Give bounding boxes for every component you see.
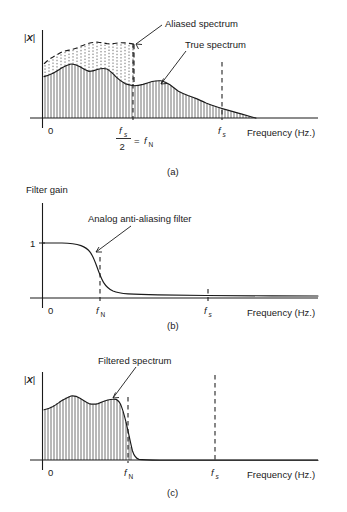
panel-a-annotation-true: True spectrum [185,39,246,50]
panel-a-tick-nyquist: f s 2 = f N [116,125,154,152]
panel-c-annotation-filtered: Filtered spectrum [98,355,171,366]
panel-c-x-axis-label: Frequency (Hz.) [247,469,315,480]
svg-text:f: f [211,467,215,478]
panel-a-true-hatching [45,64,252,118]
svg-text:f: f [144,135,148,146]
svg-text:f: f [218,125,222,136]
panel-b-y-axis-label: Filter gain [26,184,68,195]
svg-text:N: N [149,141,154,148]
svg-text:N: N [129,473,134,480]
panel-b-filter-curve [43,243,319,296]
panel-a-arrowhead-aliased [136,44,142,49]
panel-c-leader-filtered [113,367,136,398]
panel-b-tick-fn: f N [96,305,106,318]
svg-text:2: 2 [120,141,125,152]
panel-c-y-axis-label: |X| [24,374,35,385]
panel-b-tick-fs: f s [204,305,213,318]
panel-c-tick-fn: f N [124,467,134,480]
panel-c-tick-fs: f s [211,467,220,480]
svg-text:s: s [124,131,128,138]
panel-b-annotation-filter: Analog anti-aliasing filter [88,213,192,224]
panel-c-filtered-curve [44,396,318,460]
panel-c-hatching [45,396,131,460]
svg-text:f: f [204,305,208,316]
svg-text:s: s [209,311,213,318]
panel-a: |X| 0 f s 2 = f N f s Frequency (Hz.) Al… [24,18,318,177]
panel-a-tick-fs: f s [218,125,227,138]
panel-c-caption: (c) [167,487,178,498]
svg-text:N: N [101,311,106,318]
panel-a-x-axis-label: Frequency (Hz.) [247,127,315,138]
svg-text:=: = [134,135,140,146]
svg-text:f: f [124,467,128,478]
svg-text:s: s [223,131,227,138]
panel-a-y-axis-label: |X| [24,32,35,43]
panel-a-caption: (a) [167,166,179,177]
svg-text:f: f [119,125,123,136]
panel-b-tick-origin: 0 [48,305,53,316]
panel-a-leader-aliased [136,25,162,44]
panel-a-leader-true [161,51,186,84]
panel-c-tick-origin: 0 [48,467,53,478]
figure-container: |X| 0 f s 2 = f N f s Frequency (Hz.) Al… [0,0,347,512]
panel-b: Filter gain 1 0 f N f s Frequency (Hz.) … [26,184,318,331]
panel-a-tick-origin: 0 [48,125,53,136]
panel-b-x-axis-label: Frequency (Hz.) [247,307,315,318]
panel-b-caption: (b) [167,320,179,331]
svg-text:f: f [96,305,100,316]
panel-a-annotation-aliased: Aliased spectrum [165,18,238,29]
figure-svg: |X| 0 f s 2 = f N f s Frequency (Hz.) Al… [0,0,347,512]
panel-a-aliased-hatching [45,42,133,86]
panel-b-leader-filter [96,226,131,252]
panel-c: |X| 0 f N f s Frequency (Hz.) Filtered s… [24,355,318,498]
svg-text:s: s [216,473,220,480]
panel-b-ytick-one: 1 [30,238,35,249]
